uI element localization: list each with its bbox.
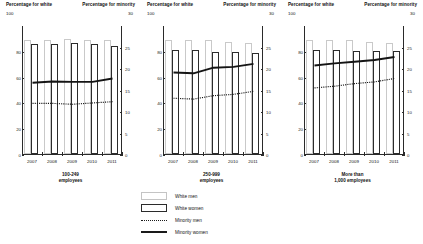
right-tick-label: 10: [125, 110, 130, 115]
line-minority-men: [174, 91, 254, 99]
right-tick-label: 5: [407, 131, 409, 136]
left-tick-label: 20: [157, 127, 162, 132]
plot-area: 0204060800510152025: [304, 26, 404, 155]
line-series-layer: [22, 26, 122, 155]
left-tick-label: 20: [16, 127, 21, 132]
right-axis-title: Percentage for minority: [364, 2, 417, 7]
chart-panel-0: Percentage for whitePercentage for minor…: [0, 0, 141, 196]
panel-title-line: employees: [141, 178, 282, 184]
x-axis-label: 2011: [381, 159, 407, 164]
right-axis-title: Percentage for minority: [223, 2, 276, 7]
legend-item: Minority men: [141, 214, 291, 226]
right-tick-label: 10: [407, 110, 412, 115]
line-series-layer: [304, 26, 404, 155]
left-tick-label: 60: [298, 75, 303, 80]
panel-title-line: employees: [0, 178, 141, 184]
line-minority-men: [33, 102, 113, 105]
left-axis-title: Percentage for white: [147, 2, 193, 7]
left-axis-title: Percentage for white: [288, 2, 334, 7]
right-tick-label: 15: [125, 88, 130, 93]
panel-title: 250-999employees: [141, 172, 282, 184]
left-axis-max-label: 100: [147, 11, 154, 16]
left-tick-label: 0: [19, 153, 21, 158]
right-tick-label: 25: [266, 45, 271, 50]
right-tick-label: 25: [125, 45, 130, 50]
right-tick-label: 15: [407, 88, 412, 93]
legend-item: Minority women: [141, 226, 291, 238]
right-axis-max-label: 30: [128, 11, 133, 16]
panel-title: More than1,000 employees: [282, 172, 423, 184]
legend-item: White men: [141, 190, 291, 202]
legend-swatch-dotted-icon: [141, 216, 167, 224]
left-tick-label: 80: [157, 49, 162, 54]
left-tick-label: 60: [16, 75, 21, 80]
chart-panel-2: Percentage for whitePercentage for minor…: [282, 0, 423, 196]
panel-title: 100-249employees: [0, 172, 141, 184]
left-axis-title: Percentage for white: [6, 2, 52, 7]
right-tick-label: 15: [266, 88, 271, 93]
x-tick-mark: [404, 152, 405, 156]
x-axis-label: 2011: [99, 159, 125, 164]
left-axis-max-label: 100: [288, 11, 295, 16]
panel-title-line: 1,000 employees: [282, 178, 423, 184]
chart-legend: White menWhite womenMinority menMinority…: [141, 190, 291, 238]
right-tick-label: 20: [407, 67, 412, 72]
left-tick-label: 40: [157, 101, 162, 106]
right-tick-label: 20: [125, 67, 130, 72]
left-tick-label: 80: [298, 49, 303, 54]
left-tick-label: 40: [16, 101, 21, 106]
legend-swatch-men-icon: [141, 192, 167, 200]
legend-label: White women: [175, 206, 203, 211]
chart-figure: Percentage for whitePercentage for minor…: [0, 0, 423, 244]
plot-area: 0204060800510152025: [163, 26, 263, 155]
right-tick-label: 20: [266, 67, 271, 72]
left-axis-max-label: 100: [6, 11, 13, 16]
right-tick-label: 25: [407, 45, 412, 50]
left-tick-label: 80: [16, 49, 21, 54]
left-tick-label: 40: [298, 101, 303, 106]
right-axis-title: Percentage for minority: [82, 2, 135, 7]
x-axis-label: 2011: [240, 159, 266, 164]
line-minority-women: [315, 57, 395, 66]
left-tick-label: 0: [160, 153, 162, 158]
line-minority-men: [315, 78, 395, 87]
right-tick-label: 0: [407, 153, 409, 158]
left-tick-label: 60: [157, 75, 162, 80]
right-tick-label: 0: [125, 153, 127, 158]
right-tick-label: 10: [266, 110, 271, 115]
legend-label: White men: [175, 194, 197, 199]
right-axis-max-label: 30: [410, 11, 415, 16]
legend-item: White women: [141, 202, 291, 214]
legend-swatch-women-icon: [141, 204, 167, 212]
x-tick-mark: [122, 152, 123, 156]
x-tick-mark: [263, 152, 264, 156]
right-axis-max-label: 30: [269, 11, 274, 16]
right-tick-label: 5: [266, 131, 268, 136]
legend-label: Minority men: [175, 218, 202, 223]
plot-area: 0204060800510152025: [22, 26, 122, 155]
chart-panel-1: Percentage for whitePercentage for minor…: [141, 0, 282, 196]
right-tick-label: 0: [266, 153, 268, 158]
left-tick-label: 0: [301, 153, 303, 158]
legend-swatch-solid-icon: [141, 228, 167, 236]
line-minority-women: [174, 64, 254, 73]
legend-label: Minority women: [175, 230, 208, 235]
line-series-layer: [163, 26, 263, 155]
left-tick-label: 20: [298, 127, 303, 132]
line-minority-women: [33, 78, 113, 82]
right-tick-label: 5: [125, 131, 127, 136]
